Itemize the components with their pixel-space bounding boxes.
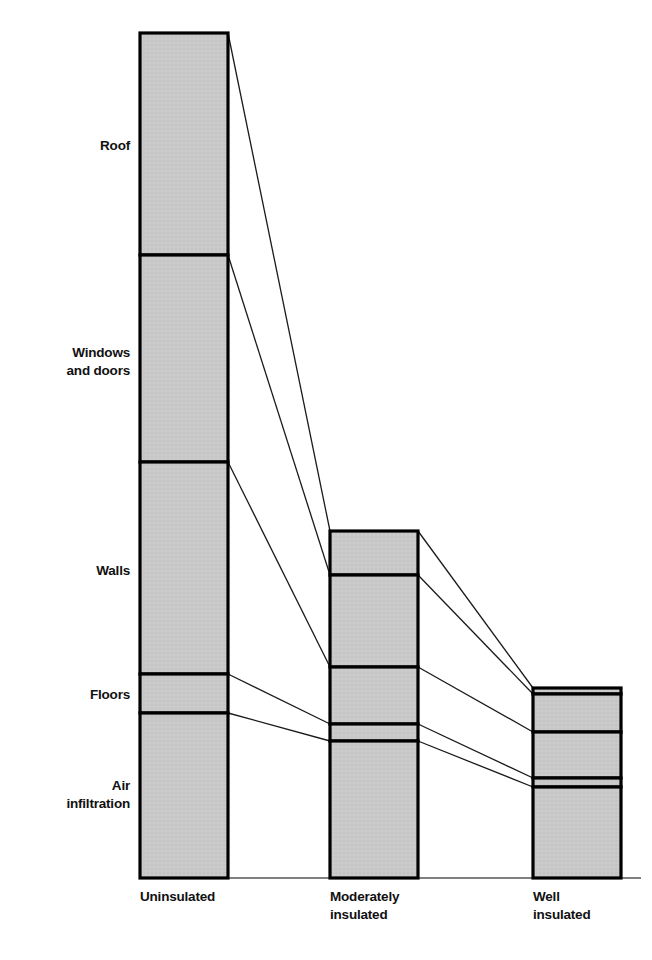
connector-line [418, 741, 533, 787]
bar-segment-windows-and-doors [140, 255, 228, 462]
bar-segment-walls [330, 667, 418, 724]
chart-canvas: RoofWindowsand doorsWallsFloorsAirinfilt… [0, 0, 652, 960]
bar-segment-air-infiltration [533, 787, 621, 878]
bar-segment-walls [533, 732, 621, 778]
heat-loss-stacked-bar-chart: RoofWindowsand doorsWallsFloorsAirinfilt… [0, 0, 652, 960]
bar-segment-walls [140, 462, 228, 674]
segment-label-walls: Walls [96, 563, 130, 578]
category-labels-group: UninsulatedModeratelyinsulatedWellinsula… [140, 889, 590, 922]
category-label-uninsulated: Uninsulated [140, 889, 215, 904]
connector-line [228, 33, 330, 531]
bar-segment-roof [140, 33, 228, 255]
connector-line [228, 462, 330, 667]
connector-line [418, 531, 533, 688]
category-label-well-insulated: Wellinsulated [533, 889, 590, 922]
bar-segment-roof [330, 531, 418, 575]
segment-labels-group: RoofWindowsand doorsWallsFloorsAirinfilt… [66, 138, 131, 811]
bar-segment-floors [330, 724, 418, 741]
segment-label-windows-and-doors: Windowsand doors [67, 345, 130, 378]
bars-group [140, 33, 621, 878]
bar-segment-floors [140, 674, 228, 713]
segment-label-floors: Floors [90, 687, 130, 702]
bar-segment-air-infiltration [330, 741, 418, 878]
category-label-moderately-insulated: Moderatelyinsulated [330, 889, 400, 922]
segment-label-roof: Roof [100, 138, 131, 153]
stacked-bar [140, 33, 228, 878]
bar-segment-windows-and-doors [533, 694, 621, 732]
stacked-bar [330, 531, 418, 878]
bar-segment-air-infiltration [140, 713, 228, 878]
bar-segment-windows-and-doors [330, 575, 418, 667]
connector-line [228, 674, 330, 724]
segment-label-air-infiltration: Airinfiltration [66, 778, 131, 811]
connector-line [228, 255, 330, 575]
connector-line [418, 724, 533, 778]
stacked-bar [533, 688, 621, 878]
